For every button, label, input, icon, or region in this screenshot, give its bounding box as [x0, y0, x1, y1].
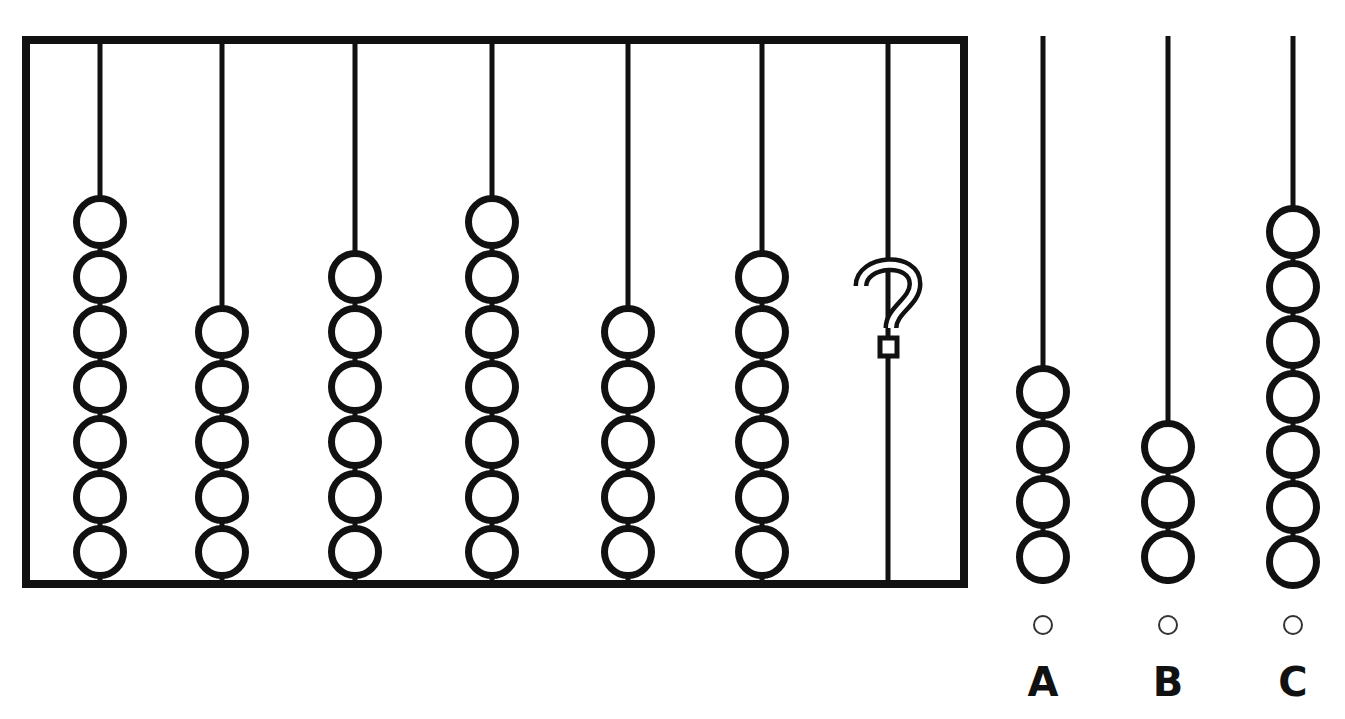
abacus-bead: [469, 254, 516, 301]
abacus-bead: [739, 309, 786, 356]
abacus-bead: [77, 419, 124, 466]
option-bead: [1145, 534, 1192, 581]
option-bead: [1020, 479, 1067, 526]
abacus-bead: [77, 529, 124, 576]
abacus-bead: [739, 419, 786, 466]
abacus-bead: [332, 364, 379, 411]
abacus-bead: [469, 474, 516, 521]
abacus-bead: [332, 474, 379, 521]
option-bead: [1020, 534, 1067, 581]
option-bead: [1270, 539, 1317, 586]
abacus-bead: [605, 309, 652, 356]
option-radio-a[interactable]: [1034, 616, 1052, 634]
abacus-bead: [332, 309, 379, 356]
option-bead: [1020, 424, 1067, 471]
option-label-a[interactable]: A: [1013, 662, 1073, 702]
option-bead: [1145, 424, 1192, 471]
abacus-bead: [199, 419, 246, 466]
abacus-bead: [77, 309, 124, 356]
abacus-bead: [605, 474, 652, 521]
abacus-bead: [469, 364, 516, 411]
abacus-bead: [605, 419, 652, 466]
option-bead: [1270, 374, 1317, 421]
abacus-puzzle-graphic: [0, 0, 1345, 719]
option-radio-b[interactable]: [1159, 616, 1177, 634]
option-bead: [1270, 264, 1317, 311]
abacus-frame-group: [26, 40, 964, 584]
abacus-bead: [469, 529, 516, 576]
abacus-bead: [469, 309, 516, 356]
abacus-bead: [739, 254, 786, 301]
puzzle-stage: A B C: [0, 0, 1345, 719]
option-bead: [1270, 484, 1317, 531]
abacus-bead: [199, 309, 246, 356]
abacus-bead: [199, 364, 246, 411]
abacus-bead: [739, 364, 786, 411]
abacus-bead: [332, 529, 379, 576]
abacus-bead: [77, 364, 124, 411]
option-bead: [1270, 319, 1317, 366]
abacus-bead: [469, 419, 516, 466]
abacus-bead: [77, 474, 124, 521]
option-label-c[interactable]: C: [1263, 662, 1323, 702]
option-bead: [1145, 479, 1192, 526]
abacus-bead: [469, 199, 516, 246]
option-bead: [1270, 209, 1317, 256]
option-bead: [1270, 429, 1317, 476]
abacus-bead: [739, 529, 786, 576]
abacus-bead: [199, 474, 246, 521]
option-bead: [1020, 369, 1067, 416]
abacus-bead: [199, 529, 246, 576]
abacus-bead: [605, 529, 652, 576]
question-mark-dot: [880, 338, 897, 356]
abacus-bead: [77, 199, 124, 246]
abacus-bead: [332, 254, 379, 301]
abacus-bead: [739, 474, 786, 521]
option-radio-c[interactable]: [1284, 616, 1302, 634]
abacus-bead: [332, 419, 379, 466]
abacus-bead: [77, 254, 124, 301]
option-label-b[interactable]: B: [1138, 662, 1198, 702]
abacus-bead: [605, 364, 652, 411]
